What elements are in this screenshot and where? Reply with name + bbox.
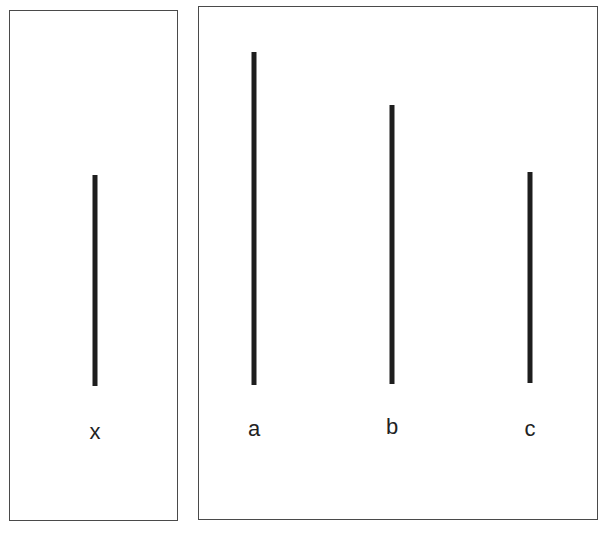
comparison-line-a-label: a [248,418,260,440]
standard-line-label: x [90,421,101,443]
comparison-lines-panel [198,6,598,520]
standard-line-x [93,175,98,386]
comparison-line-a [252,52,257,385]
comparison-line-c [528,172,533,383]
comparison-line-b-label: b [386,416,398,438]
comparison-line-b [390,105,395,384]
comparison-line-c-label: c [525,418,536,440]
